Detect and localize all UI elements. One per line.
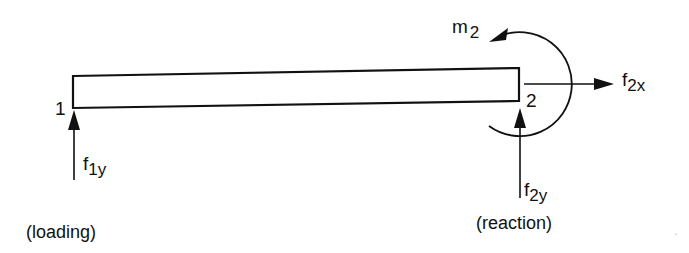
force-f1y: f1y (loading) bbox=[26, 110, 107, 242]
arrowhead-curved-icon bbox=[489, 28, 508, 42]
arrowhead-up-icon bbox=[68, 110, 80, 130]
force-f2x: f2x bbox=[524, 69, 646, 95]
scan-speck bbox=[675, 233, 677, 235]
moment-m2: m2 bbox=[452, 16, 572, 136]
f2x-label: f2x bbox=[622, 69, 646, 95]
m2-label: m2 bbox=[452, 16, 479, 42]
force-f2y: f2y (reaction) bbox=[476, 108, 552, 233]
f2y-caption: (reaction) bbox=[476, 213, 552, 233]
beam-element bbox=[73, 68, 519, 108]
f2y-label: f2y bbox=[524, 179, 548, 205]
node-1-label: 1 bbox=[55, 98, 66, 119]
node-2-label: 2 bbox=[526, 90, 537, 111]
arrowhead-right-icon bbox=[594, 78, 614, 90]
f1y-label: f1y bbox=[83, 153, 107, 179]
f1y-caption: (loading) bbox=[26, 222, 96, 242]
arrowhead-up-icon bbox=[514, 108, 526, 128]
beam-diagram: 1 2 f1y (loading) f2y (reaction) f2x m2 bbox=[0, 0, 689, 253]
